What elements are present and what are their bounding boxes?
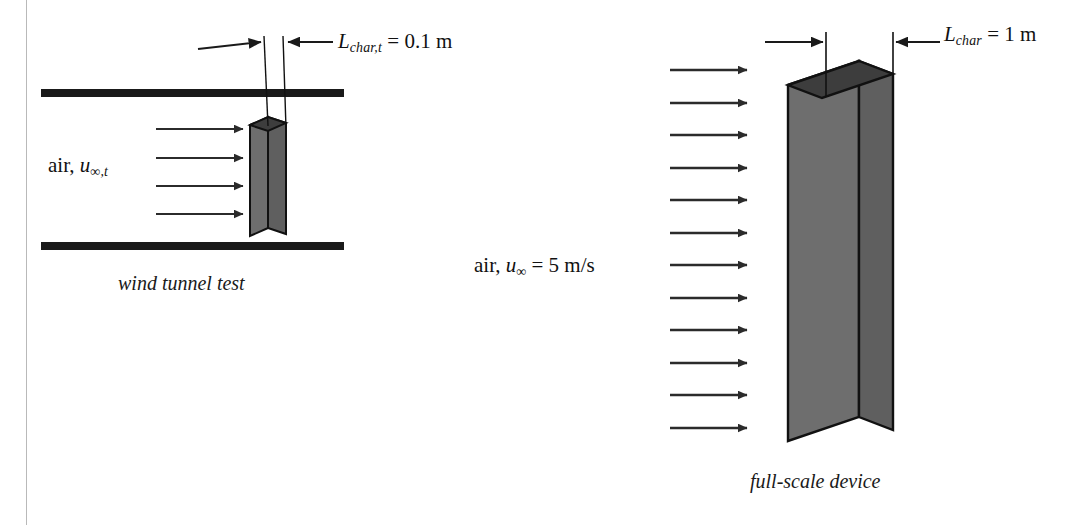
- full-scale-flow-subscript: ∞: [516, 264, 526, 279]
- full-scale-dimension-subscript: char: [956, 33, 982, 48]
- full-scale-flow-medium: air: [474, 253, 495, 277]
- full-scale-flow-separator: ,: [495, 253, 506, 277]
- full-scale-dimension-value: 1: [1004, 22, 1015, 46]
- full-scale-dimension-label: Lchar = 1 m: [944, 24, 1036, 48]
- full-scale-flow-label: air, u∞ = 5 m/s: [474, 255, 595, 279]
- figure-canvas: Lchar,t = 0.1 m air, u∞,t wind tunnel te…: [0, 0, 1081, 525]
- full-scale-dimension-equals: =: [982, 22, 1004, 46]
- full-scale-flow-arrows: [670, 70, 747, 428]
- full-scale-dimension-symbol: L: [944, 22, 956, 46]
- full-scale-dimension-unit: m: [1020, 22, 1036, 46]
- full-scale-flow-value: 5: [549, 253, 560, 277]
- full-scale-body: [788, 61, 893, 441]
- full-scale-caption: full-scale device: [750, 470, 881, 493]
- full-scale-flow-equals: =: [526, 253, 548, 277]
- full-scale-flow-symbol: u: [506, 253, 517, 277]
- full-scale-flow-unit: m/s: [564, 253, 594, 277]
